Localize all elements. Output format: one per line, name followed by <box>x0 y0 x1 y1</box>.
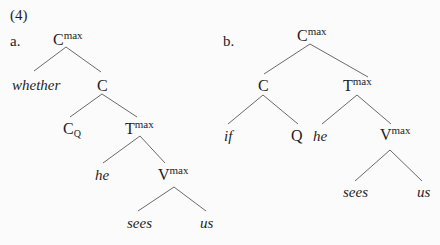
tree-b-label: b. <box>223 34 234 49</box>
edge-b-tmax-he <box>322 95 357 124</box>
node-category: V <box>158 166 170 183</box>
tree-b-node-tmax: Tmax <box>343 78 372 94</box>
tree-a-node-vmax: Vmax <box>158 167 189 183</box>
node-superscript: max <box>64 29 83 41</box>
edge-a-c-cq <box>70 94 102 117</box>
node-category: T <box>343 77 353 94</box>
node-category: Q <box>291 127 303 144</box>
edge-b-cmax-c <box>264 44 310 74</box>
tree-b-leaf-sees: sees <box>343 185 368 200</box>
tree-b-leaf-if: if <box>224 129 232 144</box>
node-category: C <box>63 120 74 137</box>
tree-b-node-q: Q <box>291 128 303 144</box>
tree-a-leaf-he: he <box>95 168 109 183</box>
edge-b-vmax-us <box>390 150 422 181</box>
edge-b-cmax-tmax <box>310 44 368 77</box>
edge-a-cmax-whether <box>34 47 66 71</box>
edge-b-tmax-vmax <box>357 95 391 124</box>
tree-b-leaf-us: us <box>417 185 430 200</box>
tree-a-leaf-us: us <box>200 216 213 231</box>
node-category: V <box>380 126 392 143</box>
node-category: T <box>125 120 135 137</box>
node-superscript: max <box>392 124 411 136</box>
edge-b-vmax-sees <box>355 150 390 181</box>
tree-a-leaf-whether: whether <box>12 78 60 93</box>
edge-a-vmax-us <box>174 187 206 211</box>
node-category: C <box>258 77 269 94</box>
tree-b-node-cmax: Cmax <box>297 28 327 44</box>
tree-a-node-cmax: Cmax <box>53 32 83 48</box>
node-category: C <box>53 31 64 48</box>
edge-a-vmax-sees <box>138 187 174 211</box>
tree-a-leaf-sees: sees <box>127 216 152 231</box>
edge-a-c-tmax <box>102 94 137 117</box>
edge-a-tmax-he <box>103 136 140 163</box>
node-category: C <box>97 77 108 94</box>
edge-b-c-if <box>228 95 263 124</box>
tree-b-leaf-he: he <box>313 129 327 144</box>
node-category: C <box>297 27 308 44</box>
tree-a-label: a. <box>10 34 20 49</box>
node-superscript: max <box>170 164 189 176</box>
tree-a-node-c: C <box>97 78 108 94</box>
edge-b-c-q <box>263 95 298 124</box>
tree-a-node-tmax: Tmax <box>125 121 154 137</box>
tree-b-node-vmax: Vmax <box>380 127 411 143</box>
node-superscript: max <box>135 118 154 130</box>
node-superscript: max <box>308 25 327 37</box>
node-superscript: max <box>353 75 372 87</box>
example-number: (4) <box>10 8 28 23</box>
node-subscript: Q <box>74 128 81 139</box>
tree-a-node-cq: CQ <box>63 121 81 137</box>
edge-a-cmax-c <box>66 47 101 72</box>
edge-a-tmax-vmax <box>140 136 165 163</box>
tree-b-node-c: C <box>258 78 269 94</box>
